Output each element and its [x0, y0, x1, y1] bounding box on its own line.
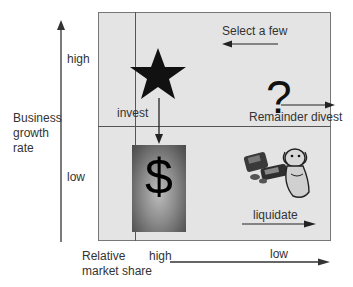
y-axis-high-label: high — [67, 52, 90, 67]
x-axis-arrow — [170, 257, 330, 267]
horizontal-divider — [98, 126, 331, 127]
dollar-sign-icon: $ — [132, 152, 186, 202]
y-axis-low-label: low — [67, 170, 85, 185]
select-a-few-label: Select a few — [222, 24, 287, 39]
y-axis-title-line: Business — [13, 111, 62, 126]
x-axis-title-line: market share — [82, 264, 152, 279]
invest-arrow — [154, 98, 164, 144]
y-axis-title-line: growth — [13, 126, 62, 141]
y-axis-title: Business growth rate — [13, 111, 62, 156]
remainder-divest-label: Remainder divest — [249, 110, 342, 125]
star-icon — [129, 48, 187, 100]
liquidate-arrow — [242, 219, 316, 229]
x-axis-title: Relative market share — [82, 249, 152, 279]
x-axis-high-label: high — [149, 249, 172, 264]
divest-arrow — [281, 100, 335, 110]
select-a-few-arrow — [222, 39, 278, 49]
x-axis-title-line: Relative — [82, 249, 152, 264]
y-axis-title-line: rate — [13, 141, 62, 156]
dog-icon — [243, 144, 315, 202]
invest-label: invest — [117, 106, 148, 121]
